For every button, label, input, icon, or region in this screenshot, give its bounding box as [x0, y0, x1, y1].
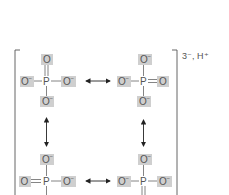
structure-bottom-left: O− P O O−	[19, 153, 76, 195]
svg-text:−: −	[71, 75, 75, 81]
svg-text:O: O	[43, 54, 51, 65]
structure-bottom-right: O− P O− O−	[117, 153, 172, 195]
svg-text:P: P	[43, 76, 50, 87]
svg-text:O: O	[159, 76, 167, 87]
structure-top-right: O− P O− O O−	[117, 53, 169, 107]
left-bracket	[15, 50, 20, 195]
svg-text:O: O	[21, 176, 29, 187]
resonance-diagram: O P O− O− O− O− P O− O O− O− P O	[0, 0, 229, 195]
svg-text:−: −	[148, 153, 152, 159]
svg-text:−: −	[147, 95, 151, 101]
svg-text:−: −	[126, 175, 130, 181]
svg-text:−: −	[148, 53, 152, 59]
svg-text:−: −	[50, 153, 54, 159]
structure-top-left: O P O− O− O−	[20, 54, 76, 107]
svg-text:P: P	[43, 176, 50, 187]
svg-text:−: −	[126, 75, 130, 81]
svg-text:−: −	[71, 175, 75, 181]
svg-text:−: −	[167, 175, 171, 181]
svg-text:−: −	[29, 75, 33, 81]
svg-text:P: P	[140, 76, 147, 87]
svg-text:P: P	[140, 176, 147, 187]
right-bracket	[172, 50, 177, 195]
svg-text:−: −	[50, 95, 54, 101]
